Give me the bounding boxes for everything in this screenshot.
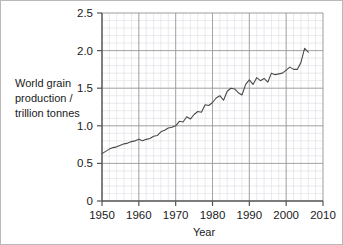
- x-tick-label-1980: 1980: [200, 209, 226, 221]
- tick-marks: [97, 13, 323, 206]
- major-gridlines: [102, 13, 323, 201]
- y-axis-label: World grain production / trillion tonnes: [15, 77, 80, 119]
- y-tick-label-2.5: 2.5: [77, 7, 93, 19]
- grain-production-line-chart: 1950196019701980199020002010 00.51.01.52…: [1, 1, 343, 245]
- x-tick-label-2000: 2000: [273, 209, 299, 221]
- y-tick-label-0.5: 0.5: [77, 157, 93, 169]
- y-tick-label-0: 0: [87, 195, 93, 207]
- x-axis-label: Year: [193, 226, 216, 238]
- y-tick-label-2.0: 2.0: [77, 45, 93, 57]
- chart-figure: 1950196019701980199020002010 00.51.01.52…: [0, 0, 343, 245]
- y-axis-label-line-2: production /: [15, 92, 73, 104]
- x-tick-label-1960: 1960: [126, 209, 152, 221]
- x-tick-label-2010: 2010: [310, 209, 336, 221]
- x-tick-label-1950: 1950: [89, 209, 115, 221]
- x-axis-tick-labels: 1950196019701980199020002010: [89, 209, 336, 221]
- y-tick-label-1.0: 1.0: [77, 120, 93, 132]
- x-tick-label-1990: 1990: [237, 209, 263, 221]
- y-axis-label-line-1: World grain: [15, 77, 71, 89]
- y-tick-label-1.5: 1.5: [77, 82, 93, 94]
- x-tick-label-1970: 1970: [163, 209, 189, 221]
- y-axis-label-line-3: trillion tonnes: [15, 107, 80, 119]
